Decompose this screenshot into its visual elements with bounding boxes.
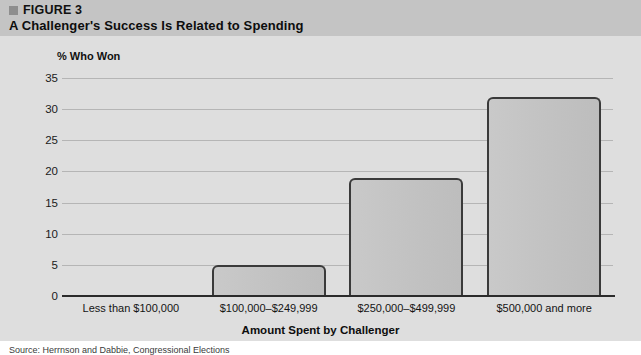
y-axis-tick-label: 5: [18, 259, 58, 271]
x-axis-title: Amount Spent by Challenger: [0, 324, 641, 336]
y-axis-tick-label: 0: [18, 290, 58, 302]
bar: [212, 265, 326, 296]
y-axis-tick-labels: 05101520253035: [14, 78, 58, 296]
bar: [349, 178, 463, 296]
y-axis-tick-label: 30: [18, 103, 58, 115]
x-axis-tick-label: $500,000 and more: [475, 302, 613, 314]
x-axis-tick-label: $100,000–$249,999: [200, 302, 338, 314]
y-axis-tick-label: 20: [18, 165, 58, 177]
figure-header-band: FIGURE 3 A Challenger's Success Is Relat…: [0, 0, 641, 36]
y-axis-tick-label: 35: [18, 72, 58, 84]
y-axis-tick-label: 15: [18, 197, 58, 209]
x-axis-tick-label: Less than $100,000: [62, 302, 200, 314]
source-note: Source: Herrnson and Dabbie, Congression…: [9, 345, 230, 355]
x-axis-tick-label: $250,000–$499,999: [338, 302, 476, 314]
y-axis-tick-label: 25: [18, 134, 58, 146]
gridline: [62, 78, 613, 79]
bar: [487, 97, 601, 296]
y-axis-tick-label: 10: [18, 228, 58, 240]
plot-area: [62, 78, 613, 296]
chart-panel: % Who Won 05101520253035 Less than $100,…: [0, 36, 641, 341]
figure-label-row: FIGURE 3: [9, 3, 82, 17]
figure-title: A Challenger's Success Is Related to Spe…: [9, 18, 304, 33]
figure-container: FIGURE 3 A Challenger's Success Is Relat…: [0, 0, 641, 355]
figure-number: FIGURE 3: [23, 3, 82, 17]
square-marker-icon: [9, 6, 18, 15]
y-axis-title: % Who Won: [57, 50, 120, 62]
x-axis-line: [62, 295, 615, 297]
